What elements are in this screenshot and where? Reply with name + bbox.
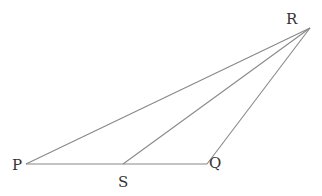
segment-pr [26, 28, 310, 164]
triangle-diagram: P S Q R [0, 0, 322, 196]
segment-qr [207, 28, 310, 164]
label-q: Q [209, 154, 221, 172]
label-p: P [12, 156, 22, 174]
label-s: S [118, 173, 128, 191]
segment-sr [123, 28, 310, 164]
label-r: R [286, 10, 298, 28]
